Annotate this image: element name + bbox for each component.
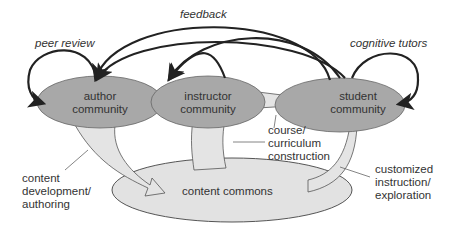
course-construction-label: course/ curriculum construction — [268, 124, 330, 163]
author-community-label: author community — [70, 90, 130, 116]
feedback-arrow-author — [96, 27, 330, 80]
peer-review-label: peer review — [35, 37, 94, 50]
cognitive-tutors-label: cognitive tutors — [350, 37, 427, 50]
content-commons-label: content commons — [182, 185, 273, 198]
feedback-label: feedback — [180, 8, 227, 21]
feedback-arrow-author2 — [98, 42, 345, 78]
customized-instruction-label: customized instruction/ exploration — [375, 163, 433, 202]
feedback-arrow-instructor — [170, 53, 225, 78]
instructor-community-label: instructor community — [175, 90, 241, 116]
diagram: feedback peer review cognitive tutors au… — [0, 0, 454, 230]
student-community-label: student community — [325, 90, 391, 116]
content-development-label: content development/ authoring — [22, 172, 91, 211]
